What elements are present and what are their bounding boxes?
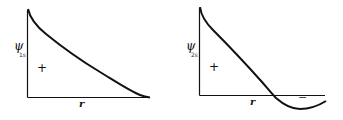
wavefunction-figure: ψ 1s + r ψ 2s + r −: [0, 0, 343, 120]
negative-region-sign-right: −: [298, 92, 307, 103]
plot-psi-1s: [28, 9, 151, 98]
x-axis-label-left: r: [79, 99, 84, 109]
y-axis-subscript-left: 1s: [19, 51, 26, 58]
plots-canvas: [0, 0, 343, 120]
x-axis-label-right: r: [250, 97, 255, 107]
curve-psi-1s: [28, 9, 150, 97]
positive-region-sign-left: +: [37, 62, 47, 74]
positive-region-sign-right: +: [209, 61, 219, 73]
y-axis-subscript-right: 2s: [191, 51, 198, 58]
